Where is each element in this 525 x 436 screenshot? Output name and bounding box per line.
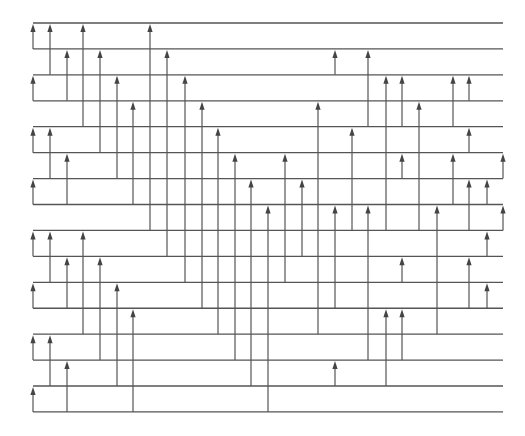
arrow bbox=[484, 231, 489, 256]
arrowhead-icon bbox=[30, 283, 35, 291]
arrowhead-icon bbox=[147, 24, 152, 32]
arrow bbox=[365, 50, 370, 127]
arrowhead-icon bbox=[248, 180, 253, 188]
arrowhead-icon bbox=[399, 309, 404, 317]
arrowhead-icon bbox=[114, 76, 119, 84]
arrowhead-icon bbox=[64, 154, 69, 162]
arrow bbox=[484, 283, 489, 308]
arrowhead-icon bbox=[383, 76, 388, 84]
arrowhead-icon bbox=[399, 76, 404, 84]
arrowhead-icon bbox=[232, 154, 237, 162]
arrowhead-icon bbox=[30, 180, 35, 188]
arrowhead-icon bbox=[64, 361, 69, 369]
arrowhead-icon bbox=[97, 257, 102, 265]
arrowhead-icon bbox=[365, 206, 370, 214]
arrow bbox=[500, 206, 505, 231]
arrowhead-icon bbox=[30, 24, 35, 32]
arrows-group bbox=[30, 24, 505, 412]
arrowhead-icon bbox=[47, 24, 52, 32]
arrowhead-icon bbox=[30, 231, 35, 239]
arrowhead-icon bbox=[332, 50, 337, 58]
arrowhead-icon bbox=[164, 50, 169, 58]
arrowhead-icon bbox=[199, 102, 204, 110]
arrowhead-icon bbox=[332, 206, 337, 214]
arrowhead-icon bbox=[349, 128, 354, 136]
arrow bbox=[434, 206, 439, 335]
arrowhead-icon bbox=[80, 231, 85, 239]
arrowhead-icon bbox=[47, 231, 52, 239]
arrowhead-icon bbox=[484, 283, 489, 291]
arrow bbox=[315, 102, 320, 334]
arrow bbox=[299, 180, 304, 257]
arrow bbox=[383, 309, 388, 386]
arrowhead-icon bbox=[282, 154, 287, 162]
arrowhead-icon bbox=[64, 50, 69, 58]
arrow bbox=[500, 154, 505, 179]
arrowhead-icon bbox=[182, 76, 187, 84]
arrowhead-icon bbox=[30, 387, 35, 395]
arrow bbox=[466, 128, 471, 153]
arrowhead-icon bbox=[114, 283, 119, 291]
arrowhead-icon bbox=[130, 309, 135, 317]
arrowhead-icon bbox=[30, 76, 35, 84]
arrowhead-icon bbox=[399, 154, 404, 162]
arrow bbox=[30, 283, 35, 308]
arrow bbox=[466, 76, 471, 101]
arrowhead-icon bbox=[500, 206, 505, 214]
arrow bbox=[399, 154, 404, 179]
arrow bbox=[30, 128, 35, 153]
arrowhead-icon bbox=[64, 257, 69, 265]
arrowhead-icon bbox=[484, 180, 489, 188]
arrowhead-icon bbox=[299, 180, 304, 188]
arrowhead-icon bbox=[484, 231, 489, 239]
arrowhead-icon bbox=[97, 50, 102, 58]
arrowhead-icon bbox=[450, 76, 455, 84]
arrowhead-icon bbox=[434, 206, 439, 214]
arrow bbox=[30, 387, 35, 412]
arrowhead-icon bbox=[30, 128, 35, 136]
network-diagram-svg bbox=[0, 0, 525, 436]
arrowhead-icon bbox=[80, 24, 85, 32]
arrowhead-icon bbox=[30, 335, 35, 343]
arrowhead-icon bbox=[416, 102, 421, 110]
arrow bbox=[30, 76, 35, 101]
arrowhead-icon bbox=[466, 257, 471, 265]
arrow bbox=[484, 180, 489, 205]
arrowhead-icon bbox=[315, 102, 320, 110]
arrowhead-icon bbox=[500, 154, 505, 162]
arrowhead-icon bbox=[365, 50, 370, 58]
arrowhead-icon bbox=[466, 76, 471, 84]
arrow bbox=[30, 180, 35, 205]
arrowhead-icon bbox=[332, 361, 337, 369]
arrow bbox=[399, 257, 404, 282]
arrow bbox=[30, 231, 35, 256]
arrow bbox=[416, 102, 421, 231]
arrowhead-icon bbox=[47, 335, 52, 343]
arrowhead-icon bbox=[130, 102, 135, 110]
network-diagram bbox=[0, 0, 525, 436]
arrowhead-icon bbox=[383, 309, 388, 317]
arrow bbox=[282, 154, 287, 283]
arrowhead-icon bbox=[450, 154, 455, 162]
arrowhead-icon bbox=[466, 180, 471, 188]
arrow bbox=[332, 361, 337, 386]
arrowhead-icon bbox=[47, 128, 52, 136]
arrow bbox=[30, 335, 35, 360]
arrow bbox=[332, 50, 337, 75]
arrowhead-icon bbox=[466, 128, 471, 136]
arrowhead-icon bbox=[399, 257, 404, 265]
arrowhead-icon bbox=[265, 206, 270, 214]
arrow bbox=[30, 24, 35, 49]
arrowhead-icon bbox=[215, 128, 220, 136]
